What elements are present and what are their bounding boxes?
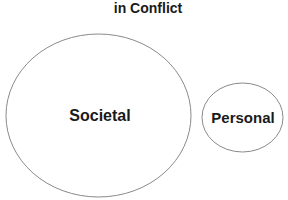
diagram-canvas: [0, 0, 288, 200]
societal-label: Societal: [69, 107, 130, 125]
personal-label: Personal: [211, 109, 274, 126]
